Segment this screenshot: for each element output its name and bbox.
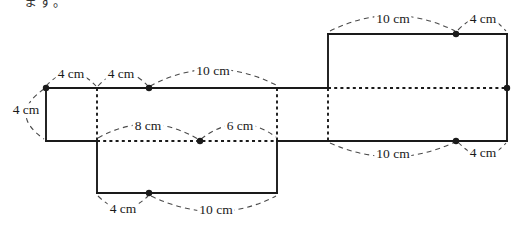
dimension-arcs: [26, 16, 506, 212]
dimension-label-bottom-right-10: 10 cm: [374, 147, 411, 161]
dot-bottom-right-edge: [453, 138, 459, 144]
worksheet-canvas: ます。: [0, 0, 522, 226]
dimension-label-top-right-4: 4 cm: [468, 12, 499, 26]
dimension-label-top-right-10: 10 cm: [374, 12, 411, 26]
dimension-label-top-middle: 10 cm: [194, 64, 231, 78]
dimension-label-middle-6: 6 cm: [225, 119, 256, 133]
dot-right-middle: [504, 85, 510, 91]
dot-top-right-edge: [453, 31, 459, 37]
dimension-label-top-left-second: 4 cm: [106, 67, 137, 81]
dot-top-edge: [146, 85, 152, 91]
dimension-label-bottom-right-4: 4 cm: [468, 146, 499, 160]
dot-bottom-edge: [146, 190, 152, 196]
box-net-diagram: [0, 0, 522, 226]
dot-middle-fold: [197, 138, 203, 144]
dimension-label-top-left-first: 4 cm: [56, 67, 87, 81]
dimension-label-bottom-mid-4: 4 cm: [108, 202, 139, 216]
dot-top-left-corner: [43, 85, 49, 91]
dimension-label-middle-8: 8 cm: [133, 119, 164, 133]
dimension-label-bottom-mid-10: 10 cm: [197, 203, 234, 217]
dimension-label-left-side: 4 cm: [11, 103, 42, 117]
